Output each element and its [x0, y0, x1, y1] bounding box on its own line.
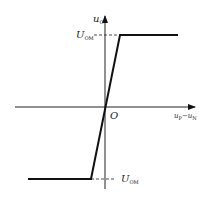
transfer-characteristic-diagram: uO UOM UOM O uP−uN: [0, 0, 211, 198]
upper-level-label: UOM: [76, 29, 94, 41]
y-axis-label: uO: [93, 13, 104, 25]
x-axis-label: uP−uN: [174, 112, 197, 121]
lower-level-label: UOM: [121, 173, 139, 185]
origin-label: O: [110, 110, 118, 121]
